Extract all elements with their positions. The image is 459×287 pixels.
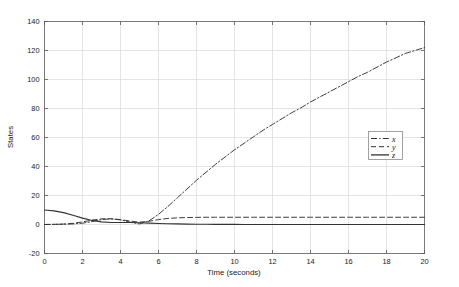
x-axis-label: Time (seconds) [207, 268, 261, 277]
x-tick-label: 12 [268, 257, 276, 266]
y-tick-label: 40 [31, 162, 39, 171]
x-tick-label: 18 [382, 257, 390, 266]
x-tick-label: 8 [194, 257, 198, 266]
figure-canvas: 02468101214161820 -20020406080100120140 … [0, 0, 459, 287]
y-tick-label: 80 [31, 104, 39, 113]
y-tick-label: 100 [27, 75, 39, 84]
x-tick-label: 14 [306, 257, 314, 266]
y-tick-label: 60 [31, 133, 39, 142]
y-tick-label: 120 [27, 46, 39, 55]
y-tick-label: -20 [29, 249, 40, 258]
y-tick-label: 20 [31, 191, 39, 200]
x-tick-label: 4 [118, 257, 122, 266]
x-tick-label: 2 [80, 257, 84, 266]
y-axis-label: States [6, 126, 15, 148]
y-tick-label: 0 [35, 220, 39, 229]
x-tick-label: 16 [344, 257, 352, 266]
x-tick-label: 10 [230, 257, 238, 266]
x-tick-label: 6 [156, 257, 160, 266]
x-tick-label: 0 [42, 257, 46, 266]
line-chart: 02468101214161820 -20020406080100120140 … [0, 0, 459, 287]
y-tick-label: 140 [27, 17, 39, 26]
x-tick-label: 20 [420, 257, 428, 266]
legend[interactable]: xyz [369, 132, 403, 160]
